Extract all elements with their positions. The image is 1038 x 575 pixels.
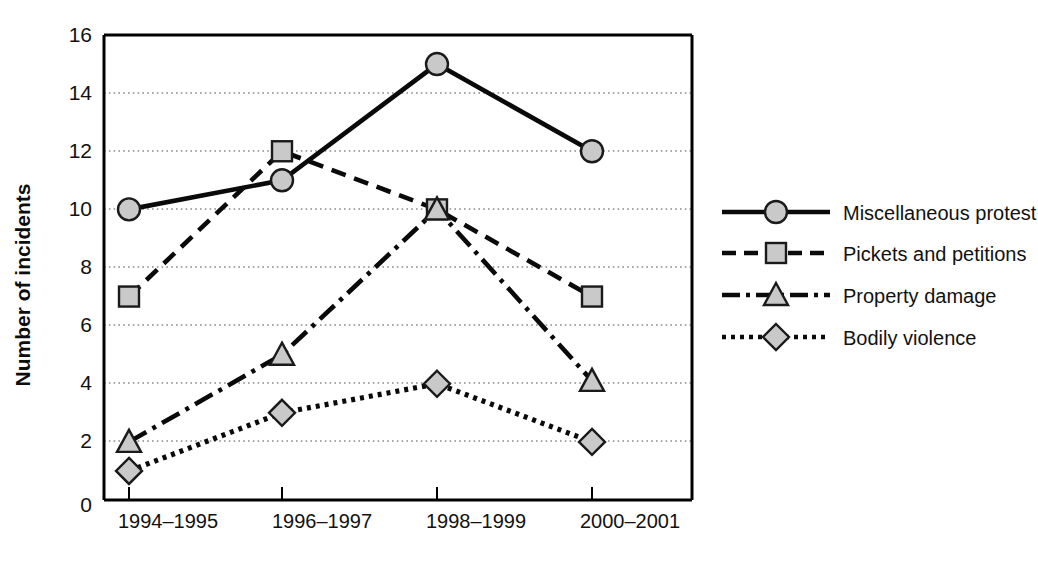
series-bodily-violence — [116, 371, 605, 484]
y-axis-title: Number of incidents — [11, 183, 34, 386]
data-point-square-marker — [582, 287, 602, 307]
y-tick-label: 2 — [80, 429, 92, 452]
y-tick-label: 14 — [69, 81, 93, 104]
data-point-circle-marker — [118, 198, 140, 220]
x-tick-label: 1994–1995 — [118, 510, 218, 532]
x-tick-labels: 1994–1995 1996–1997 1998–1999 2000–2001 — [118, 510, 680, 532]
data-point-diamond-marker — [269, 400, 295, 426]
line-chart: Number of incidents 16 14 12 10 8 6 4 2 … — [0, 0, 1038, 575]
x-tick-label: 1996–1997 — [272, 510, 372, 532]
data-point-diamond-marker — [116, 458, 142, 484]
legend-item[interactable]: Bodily violence — [722, 324, 976, 350]
series-line — [129, 64, 592, 209]
legend-label: Bodily violence — [843, 327, 976, 349]
data-point-circle-marker — [271, 169, 293, 191]
legend-item[interactable]: Miscellaneous protest — [722, 201, 1037, 224]
x-tick-label: 2000–2001 — [580, 510, 680, 532]
y-tick-label: 6 — [80, 313, 92, 336]
series-line — [129, 151, 592, 296]
y-tick-label: 0 — [80, 493, 92, 516]
series-line — [129, 384, 592, 471]
legend-item[interactable]: Pickets and petitions — [722, 243, 1026, 265]
legend-item[interactable]: Property damage — [722, 283, 996, 307]
data-point-triangle-marker — [580, 369, 604, 391]
data-point-triangle-marker — [117, 430, 141, 452]
chart-page: Number of incidents 16 14 12 10 8 6 4 2 … — [0, 0, 1038, 575]
y-tick-label: 4 — [80, 371, 92, 394]
data-point-diamond-marker — [424, 371, 450, 397]
legend-diamond-marker — [763, 324, 789, 350]
series-layer — [116, 53, 605, 484]
legend-label: Property damage — [843, 285, 996, 307]
data-point-square-marker — [272, 141, 292, 161]
y-tick-label: 10 — [69, 197, 92, 220]
data-point-circle-marker — [426, 53, 448, 75]
data-point-square-marker — [119, 287, 139, 307]
legend-square-marker — [766, 243, 786, 263]
y-tick-label: 12 — [69, 139, 92, 162]
legend-label: Miscellaneous protest — [843, 202, 1037, 224]
data-point-triangle-marker — [270, 343, 294, 365]
data-point-circle-marker — [581, 140, 603, 162]
data-point-diamond-marker — [579, 429, 605, 455]
legend-label: Pickets and petitions — [843, 243, 1026, 265]
y-tick-label: 16 — [69, 23, 92, 46]
legend-circle-marker — [765, 201, 787, 223]
y-tick-labels: 16 14 12 10 8 6 4 2 0 — [69, 23, 93, 516]
series-miscellaneous-protest — [118, 53, 603, 220]
x-tick-marks — [129, 487, 592, 500]
x-tick-label: 1998–1999 — [426, 510, 526, 532]
chart-legend: Miscellaneous protestPickets and petitio… — [722, 201, 1037, 350]
y-tick-label: 8 — [80, 255, 92, 278]
